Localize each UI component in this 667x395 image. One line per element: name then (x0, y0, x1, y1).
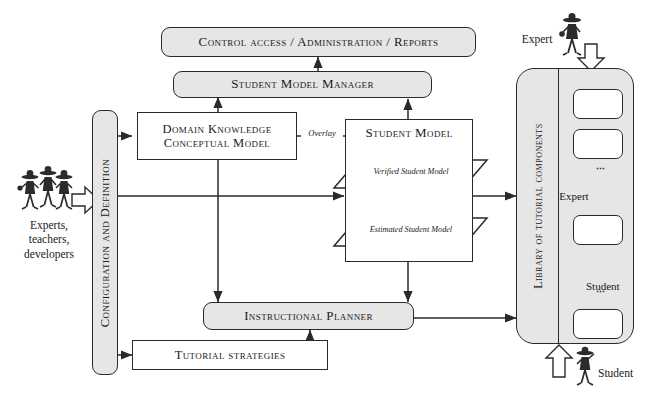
configuration-and-definition-label: Configuration and Definition (98, 158, 113, 327)
library-component-1[interactable] (573, 89, 623, 119)
label-estimated-student-model: Estimated Student Model (352, 225, 470, 235)
expert-top-figure (559, 13, 581, 55)
library-component-2[interactable] (573, 129, 623, 159)
label-verified-student-model: Verified Student Model (352, 167, 470, 177)
library-title-column: Library of tutorial components (517, 69, 558, 343)
student-model-title: Student Model (346, 126, 472, 141)
panel-library-of-tutorial-components[interactable]: Library of tutorial components ⋮ ⋮ (516, 68, 634, 344)
library-title-label: Library of tutorial components (530, 123, 545, 288)
label-expert-top: Expert (512, 32, 562, 46)
label-student-inner: Student (586, 280, 634, 294)
block-arrow-student-to-library (546, 345, 572, 377)
diagram-canvas: Control access / Administration / Report… (0, 0, 667, 395)
library-ellipsis-1: ⋮ (595, 164, 605, 174)
experts-line-1: Experts, (8, 218, 90, 232)
node-configuration-and-definition[interactable]: Configuration and Definition (92, 110, 118, 375)
library-divider (558, 69, 559, 343)
experts-figures (17, 166, 72, 209)
block-arrow-expert-to-library (578, 44, 604, 71)
domain-knowledge-line-1: Domain Knowledge (162, 122, 271, 136)
label-expert-inner: Expert (551, 190, 597, 204)
node-instructional-planner[interactable]: Instructional Planner (203, 302, 414, 330)
experts-line-3: developers (8, 247, 90, 261)
label-overlay: Overlay (301, 128, 343, 139)
node-student-model-manager[interactable]: Student Model Manager (173, 71, 432, 98)
label-experts-teachers-developers: Experts, teachers, developers (8, 218, 90, 261)
node-student-model[interactable]: Student Model (345, 119, 473, 262)
node-control-access[interactable]: Control access / Administration / Report… (161, 27, 476, 57)
node-tutorial-strategies[interactable]: Tutorial strategies (132, 340, 328, 370)
experts-line-2: teachers, (8, 232, 90, 246)
domain-knowledge-line-2: Conceptual Model (164, 136, 270, 150)
student-bottom-figure (577, 347, 595, 385)
node-domain-knowledge-conceptual-model[interactable]: Domain Knowledge Conceptual Model (137, 112, 297, 160)
library-component-3[interactable] (573, 215, 623, 245)
label-student-bottom: Student (598, 366, 654, 380)
library-component-4[interactable] (573, 309, 623, 339)
